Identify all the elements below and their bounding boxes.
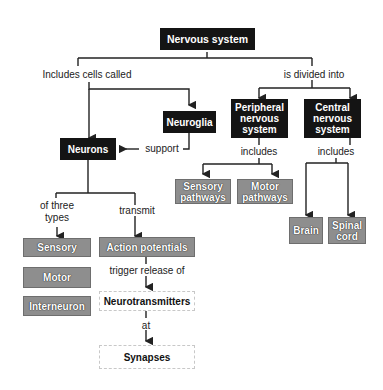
link-pns-includes: includes: [239, 146, 279, 158]
node-peripheral-nervous-system: Peripheral nervous system: [231, 99, 288, 138]
node-motor: Motor: [23, 267, 91, 288]
node-label: nervous: [313, 113, 352, 124]
node-label: Peripheral: [235, 102, 284, 113]
node-motor-pathways: Motor pathways: [237, 179, 293, 204]
link-transmit: transmit: [117, 205, 157, 217]
link-cns-includes: includes: [314, 146, 358, 158]
link-includes-cells-called: Includes cells called: [32, 69, 142, 81]
node-neurotransmitters: Neurotransmitters: [99, 291, 195, 311]
node-label: cord: [336, 231, 358, 242]
node-label: Motor: [251, 181, 279, 192]
node-neurons: Neurons: [60, 138, 116, 160]
node-label: Neuroglia: [166, 117, 212, 128]
link-is-divided-into: is divided into: [264, 69, 364, 81]
node-label: nervous: [240, 113, 279, 124]
node-label: pathways: [242, 192, 288, 203]
node-label: Action potentials: [106, 242, 187, 253]
node-nervous-system: Nervous system: [160, 28, 255, 50]
node-label: Interneuron: [29, 301, 85, 312]
node-brain: Brain: [289, 217, 323, 244]
node-sensory: Sensory: [23, 238, 91, 257]
node-neuroglia: Neuroglia: [163, 111, 216, 133]
node-label: pathways: [180, 192, 226, 203]
node-label: Brain: [293, 225, 319, 236]
node-central-nervous-system: Central nervous system: [304, 99, 361, 138]
link-trigger-release-of: trigger release of: [104, 265, 190, 277]
node-interneuron: Interneuron: [23, 296, 91, 316]
node-action-potentials: Action potentials: [99, 237, 195, 257]
link-label-line: types: [30, 212, 84, 224]
node-label: Neurotransmitters: [104, 296, 191, 307]
node-label: Synapses: [124, 352, 171, 363]
node-spinal-cord: Spinal cord: [328, 217, 366, 244]
node-label: system: [315, 124, 349, 135]
node-label: system: [242, 124, 276, 135]
node-synapses: Synapses: [99, 345, 195, 369]
node-label: Sensory: [37, 242, 76, 253]
node-label: Motor: [43, 272, 71, 283]
node-label: Neurons: [68, 144, 109, 155]
node-sensory-pathways: Sensory pathways: [175, 179, 231, 204]
node-label: Spinal: [332, 220, 362, 231]
node-label: Sensory: [183, 181, 222, 192]
node-label: Nervous system: [167, 34, 248, 45]
link-at: at: [136, 320, 156, 332]
node-label: Central: [315, 102, 349, 113]
link-label-line: of three: [30, 200, 84, 212]
link-of-three-types: of three types: [30, 200, 84, 224]
link-support: support: [141, 143, 183, 155]
